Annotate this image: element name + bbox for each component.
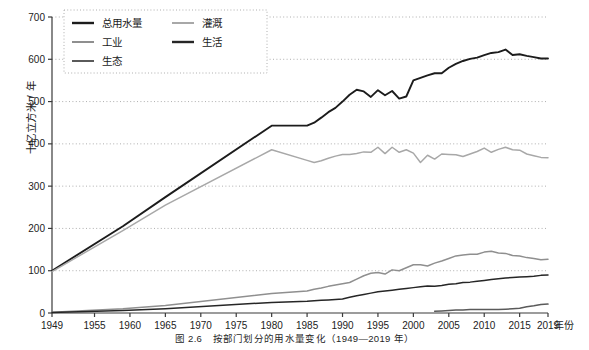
x-tick-label: 1975 bbox=[225, 320, 248, 331]
y-tick-label: 400 bbox=[28, 138, 45, 149]
legend-label-生态: 生态 bbox=[102, 55, 123, 67]
series-line-生态 bbox=[435, 304, 548, 311]
x-tick-label: 2000 bbox=[402, 320, 425, 331]
y-tick-label: 0 bbox=[39, 308, 45, 319]
legend-label-工业: 工业 bbox=[102, 36, 122, 48]
x-tick-label: 1955 bbox=[83, 320, 106, 331]
x-tick-label: 1980 bbox=[261, 320, 284, 331]
figure-caption: 图 2.6 按部门划分的用水量变化（1949—2019 年） bbox=[0, 331, 589, 345]
x-tick-label: 1965 bbox=[154, 320, 177, 331]
series-line-灌溉 bbox=[52, 147, 548, 271]
x-tick-label: 1985 bbox=[296, 320, 319, 331]
y-tick-label: 100 bbox=[28, 265, 45, 276]
series-line-总用水量 bbox=[52, 50, 548, 271]
figure-container: 十亿立方米 / 年 010020030040050060070019491955… bbox=[0, 0, 589, 350]
x-axis-unit-label: 年份 bbox=[554, 319, 574, 331]
legend-label-总用水量: 总用水量 bbox=[102, 17, 143, 29]
legend-box bbox=[64, 10, 267, 73]
x-tick-label: 1995 bbox=[367, 320, 390, 331]
x-tick-label: 1949 bbox=[41, 320, 64, 331]
legend-label-生活: 生活 bbox=[202, 36, 223, 48]
x-tick-label: 2005 bbox=[438, 320, 461, 331]
x-tick-label: 1990 bbox=[331, 320, 354, 331]
line-chart: 0100200300400500600700194919551960196519… bbox=[0, 0, 589, 350]
y-tick-label: 300 bbox=[28, 181, 45, 192]
y-tick-label: 700 bbox=[28, 12, 45, 23]
x-tick-label: 2010 bbox=[473, 320, 496, 331]
y-tick-label: 200 bbox=[28, 223, 45, 234]
x-tick-label: 1970 bbox=[190, 320, 213, 331]
y-tick-label: 600 bbox=[28, 54, 45, 65]
series-line-生活 bbox=[52, 275, 548, 313]
x-tick-label: 2015 bbox=[509, 320, 532, 331]
y-tick-label: 500 bbox=[28, 96, 45, 107]
legend-label-灌溉: 灌溉 bbox=[202, 17, 223, 29]
x-tick-label: 1960 bbox=[119, 320, 142, 331]
